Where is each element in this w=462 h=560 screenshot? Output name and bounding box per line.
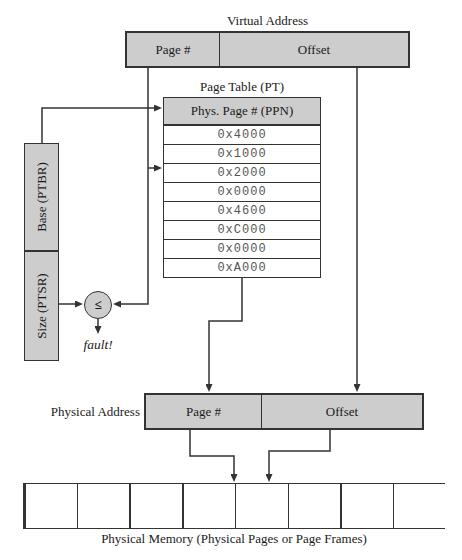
physical-address-title: Physical Address (38, 404, 140, 419)
fault-label: fault! (66, 337, 130, 353)
va-page-number-cell: Page # (127, 33, 220, 66)
physical-address-box: Page # Offset (144, 393, 424, 430)
connector-va-page-down (121, 68, 148, 304)
connector-pt-to-pa-page (209, 268, 242, 384)
memory-cell-divider (235, 484, 237, 528)
memory-cell-divider (288, 484, 290, 528)
size-ptsr-label: Size (PTSR) (34, 273, 50, 338)
memory-cell-divider (24, 484, 26, 528)
physical-memory-caption: Physical Memory (Physical Pages or Page … (23, 531, 445, 546)
page-table-row: 0x4600 (164, 201, 320, 220)
page-table-row: 0x4000 (164, 125, 320, 144)
page-table-row: 0xA000 (164, 258, 320, 277)
connector-pa-page-to-memory (190, 430, 234, 474)
connector-base-to-pt-header (42, 108, 154, 143)
page-table-row: 0x2000 (164, 163, 320, 182)
page-table-diagram: Virtual Address Page # Offset Page Table… (0, 0, 462, 560)
pa-page-number-cell: Page # (146, 395, 262, 428)
page-table-row: 0x0000 (164, 182, 320, 201)
physical-memory-strip (23, 483, 445, 529)
connector-pa-offset-to-memory (269, 430, 330, 474)
size-ptsr-register: Size (PTSR) (24, 251, 59, 361)
memory-cell-divider (182, 484, 184, 528)
va-offset-cell: Offset (220, 33, 408, 66)
page-table-row: 0x1000 (164, 144, 320, 163)
bounds-check-comparator: ≤ (84, 291, 112, 319)
page-table-row: 0x0000 (164, 239, 320, 258)
pa-offset-cell: Offset (262, 395, 422, 428)
page-table: Phys. Page # (PPN) 0x4000 0x1000 0x2000 … (163, 97, 321, 278)
base-ptbr-register: Base (PTBR) (24, 143, 59, 251)
less-equal-symbol: ≤ (94, 297, 101, 313)
memory-cell-divider (393, 484, 395, 528)
virtual-address-title: Virtual Address (125, 13, 410, 28)
page-table-header: Phys. Page # (PPN) (164, 98, 320, 125)
virtual-address-box: Page # Offset (125, 31, 410, 68)
base-ptbr-label: Base (PTBR) (34, 162, 50, 232)
memory-cell-divider (77, 484, 79, 528)
memory-cell-divider (129, 484, 131, 528)
memory-cell-divider (340, 484, 342, 528)
page-table-row: 0xC000 (164, 220, 320, 239)
page-table-title: Page Table (PT) (163, 79, 321, 94)
